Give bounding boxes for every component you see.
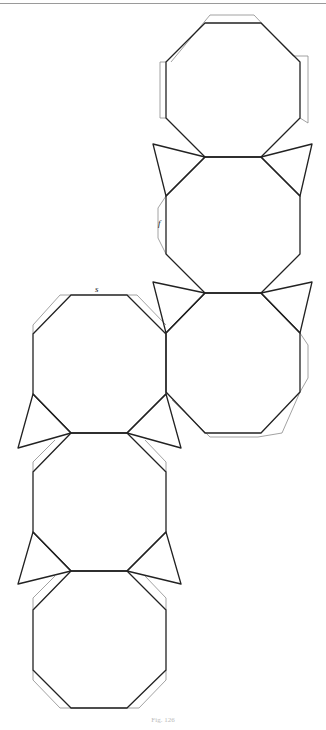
triangle-tri-r2-l (153, 282, 205, 333)
truncated-cube-net-diagram (0, 0, 326, 730)
triangle-tri-r2-r (261, 282, 312, 333)
triangle-tri-l2-r (127, 532, 181, 584)
triangle-tri-r1-r (261, 144, 312, 196)
octagon-left-2 (33, 433, 166, 571)
octagon-left-3 (33, 571, 166, 708)
octagon-right-2 (166, 157, 300, 293)
octagon-left-1 (33, 295, 166, 433)
edge-label-s: s (95, 284, 99, 294)
flap-flap-l2-top-r (145, 440, 166, 472)
triangle-tri-r1-l (153, 144, 205, 196)
octagon-faces (33, 23, 300, 708)
gluing-flaps (33, 15, 308, 708)
figure-caption: Fig. 126 (0, 716, 326, 724)
flap-label-f: f (158, 218, 161, 228)
flap-flap-r3-right (300, 333, 308, 392)
flap-flap-l2-top-l (33, 440, 55, 472)
flap-flap-r1-top (171, 15, 308, 123)
triangle-faces (18, 144, 312, 584)
octagon-right-3 (166, 293, 300, 433)
flap-flap-r3-bottom (172, 392, 300, 437)
octagon-right-1 (166, 23, 300, 157)
triangle-tri-l2-l (18, 532, 71, 584)
triangle-tri-l1-l (18, 394, 71, 448)
flap-flap-l3-top-l (33, 576, 55, 610)
flap-flap-r1-topleft (160, 62, 166, 118)
triangle-tri-l1-r (127, 394, 181, 448)
